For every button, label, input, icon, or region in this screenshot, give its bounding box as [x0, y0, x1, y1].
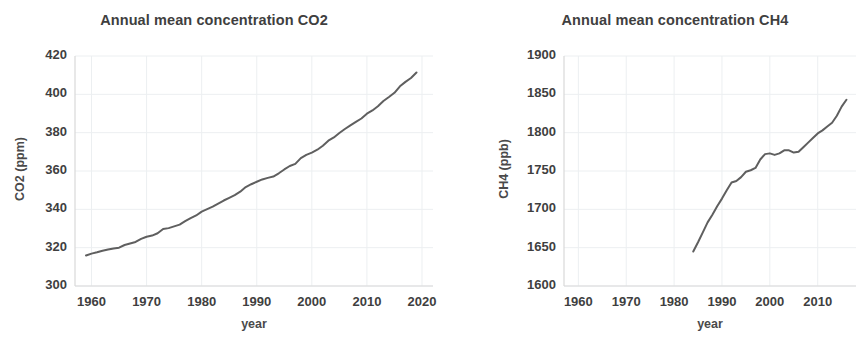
x-tick-label: 1970 [117, 294, 177, 309]
x-tick-label: 1980 [172, 294, 232, 309]
x-tick-label: 1990 [227, 294, 287, 309]
y-tick-label: 1700 [527, 200, 556, 215]
y-tick-label: 300 [45, 277, 67, 292]
chart-panel-co2: Annual mean concentration CO2 CO2 (ppm) … [0, 0, 456, 340]
x-tick-label: 1960 [62, 294, 122, 309]
y-tick-label: 360 [45, 162, 67, 177]
y-tick-label: 1900 [527, 47, 556, 62]
x-tick-label: 2000 [282, 294, 342, 309]
plot-area-co2 [0, 0, 456, 340]
plot-area-ch4 [456, 0, 866, 340]
y-tick-label: 340 [45, 200, 67, 215]
y-tick-label: 1600 [527, 277, 556, 292]
y-tick-label: 320 [45, 239, 67, 254]
y-tick-label: 1750 [527, 162, 556, 177]
x-axis-label-ch4: year [690, 317, 730, 331]
y-tick-label: 1850 [527, 85, 556, 100]
y-axis-label-co2: CO2 (ppm) [13, 137, 27, 201]
x-tick-label: 2010 [337, 294, 397, 309]
x-tick-label: 2010 [788, 294, 848, 309]
y-tick-label: 420 [45, 47, 67, 62]
y-tick-label: 380 [45, 124, 67, 139]
y-tick-label: 1800 [527, 124, 556, 139]
x-tick-label: 2020 [392, 294, 452, 309]
x-axis-label-co2: year [234, 317, 274, 331]
y-tick-label: 400 [45, 85, 67, 100]
two-panel-greenhouse-gas-figure: Annual mean concentration CO2 CO2 (ppm) … [0, 0, 866, 340]
y-tick-label: 1650 [527, 239, 556, 254]
chart-panel-ch4: Annual mean concentration CH4 CH4 (ppb) … [456, 0, 866, 340]
y-axis-label-ch4: CH4 (ppb) [497, 139, 511, 199]
